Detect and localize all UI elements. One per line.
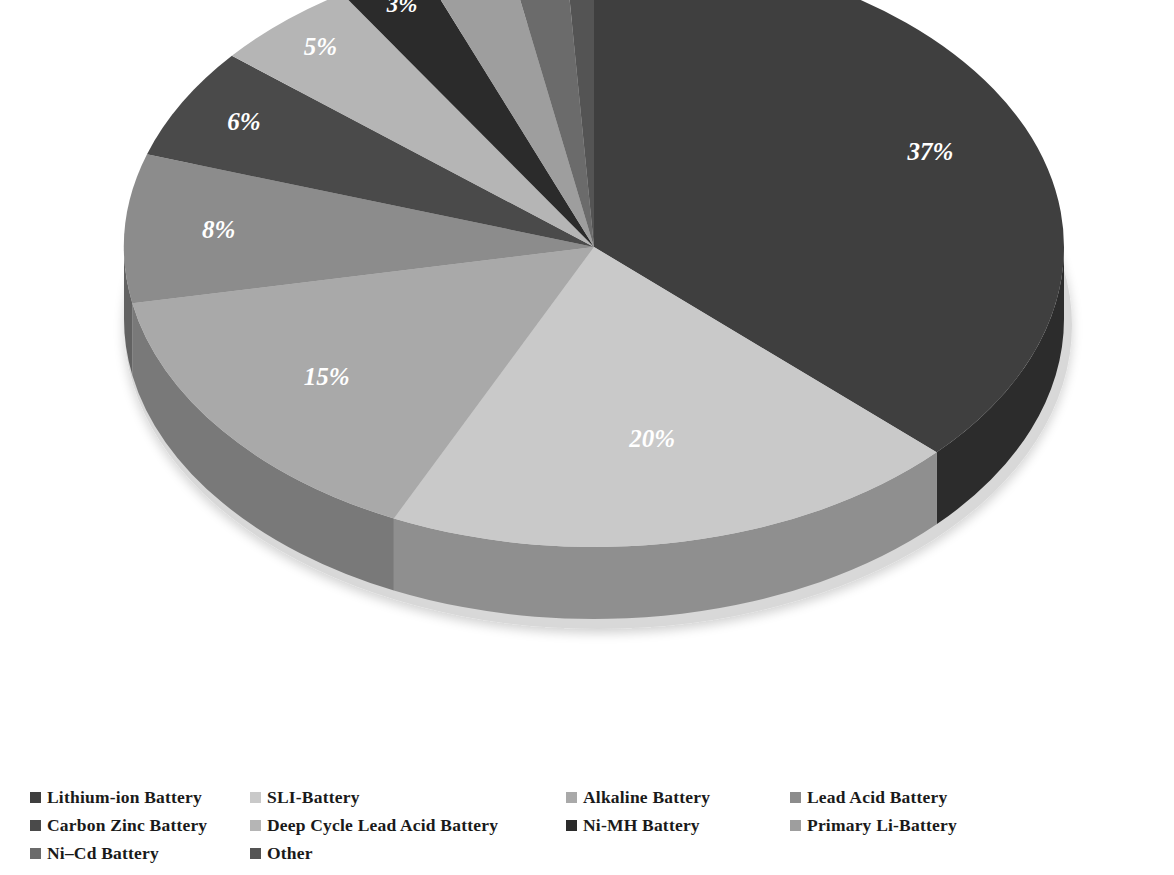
pie-chart-svg: Lithium-ion Battery 37%SLI-Battery 20%Al… [0,0,1174,780]
slice-label-5: 6% [227,108,260,135]
legend-label: Lead Acid Battery [807,787,947,808]
legend-swatch-icon [30,792,41,803]
legend-swatch-icon [790,820,801,831]
legend-label: Ni–Cd Battery [47,843,159,864]
legend-swatch-icon [790,792,801,803]
legend-label: Other [267,843,313,864]
legend-label: Carbon Zinc Battery [47,815,207,836]
legend-item[interactable]: Deep Cycle Lead Acid Battery [250,811,498,839]
legend-item[interactable]: Primary Li-Battery [790,811,957,839]
slice-label-3: 15% [304,363,350,390]
legend-swatch-icon [566,792,577,803]
slice-label-4: 8% [202,216,235,243]
legend-label: Lithium-ion Battery [47,787,202,808]
legend-item[interactable]: Ni–Cd Battery [30,839,159,867]
legend-swatch-icon [30,820,41,831]
slice-label-6: 5% [304,33,337,60]
slice-label-1: 37% [906,138,953,165]
legend-row: Ni–Cd BatteryOther [0,839,1174,867]
pie-chart-figure: Lithium-ion Battery 37%SLI-Battery 20%Al… [0,0,1174,875]
legend-item[interactable]: Other [250,839,313,867]
slice-label-7: 3% [386,0,418,17]
legend-item[interactable]: Ni-MH Battery [566,811,700,839]
legend-row: Carbon Zinc BatteryDeep Cycle Lead Acid … [0,811,1174,839]
legend-row: Lithium-ion BatterySLI-BatteryAlkaline B… [0,783,1174,811]
legend-swatch-icon [566,820,577,831]
chart-legend: Lithium-ion BatterySLI-BatteryAlkaline B… [0,783,1174,875]
legend-swatch-icon [250,792,261,803]
legend-swatch-icon [250,848,261,859]
legend-label: Primary Li-Battery [807,815,957,836]
legend-label: Ni-MH Battery [583,815,700,836]
slice-label-2: 20% [628,425,675,452]
legend-label: Alkaline Battery [583,787,710,808]
legend-swatch-icon [250,820,261,831]
legend-item[interactable]: Carbon Zinc Battery [30,811,207,839]
legend-label: SLI-Battery [267,787,360,808]
legend-item[interactable]: Alkaline Battery [566,783,710,811]
legend-item[interactable]: Lithium-ion Battery [30,783,202,811]
legend-swatch-icon [30,848,41,859]
legend-item[interactable]: SLI-Battery [250,783,360,811]
legend-label: Deep Cycle Lead Acid Battery [267,815,498,836]
legend-item[interactable]: Lead Acid Battery [790,783,947,811]
